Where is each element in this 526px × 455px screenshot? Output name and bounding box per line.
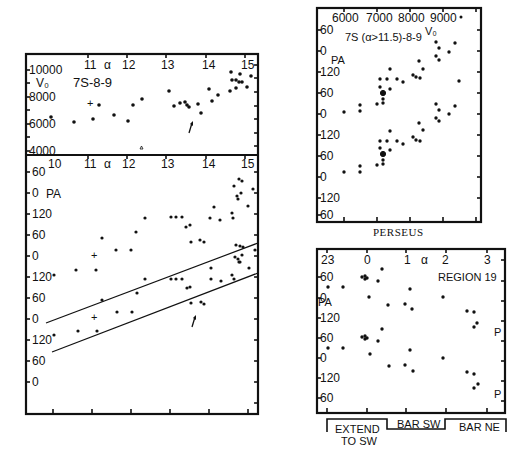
rb-title: REGION 19 bbox=[438, 271, 497, 283]
svg-text:60: 60 bbox=[32, 291, 46, 305]
p-marker: P bbox=[494, 388, 501, 400]
svg-text:+: + bbox=[91, 311, 97, 323]
svg-text:α: α bbox=[104, 58, 111, 72]
svg-text:+: + bbox=[91, 249, 97, 261]
svg-text:0: 0 bbox=[320, 170, 327, 184]
svg-text:α: α bbox=[421, 253, 428, 267]
svg-text:60: 60 bbox=[32, 165, 46, 179]
svg-text:1: 1 bbox=[404, 253, 411, 267]
svg-text:14: 14 bbox=[202, 157, 216, 171]
svg-text:11: 11 bbox=[84, 58, 97, 72]
svg-text:0: 0 bbox=[320, 351, 327, 365]
svg-text:10: 10 bbox=[48, 157, 62, 171]
lb-x-ticks: 10 11 α 12 13 14 15 bbox=[48, 155, 255, 414]
svg-text:23: 23 bbox=[321, 253, 335, 267]
svg-text:13: 13 bbox=[161, 58, 175, 72]
svg-text:0: 0 bbox=[32, 249, 39, 263]
region-bar-ne-label: BAR NE bbox=[459, 421, 500, 433]
right-top-panel: 6000 7000 8000 9000 V₀ 7S (α>11.5)-8-9 P… bbox=[317, 8, 481, 238]
right-bottom-panel: 23 0 1 α 2 3 REGION 19 PA 60 0 120 60 0 … bbox=[317, 249, 506, 447]
svg-text:13: 13 bbox=[161, 157, 175, 171]
svg-text:3: 3 bbox=[484, 253, 491, 267]
svg-text:α: α bbox=[104, 157, 111, 171]
lb-ylabel: PA bbox=[46, 187, 61, 201]
svg-text:60: 60 bbox=[32, 354, 46, 368]
svg-text:60: 60 bbox=[320, 149, 334, 163]
svg-text:0: 0 bbox=[32, 375, 39, 389]
fit-line-lower bbox=[52, 273, 258, 352]
svg-text:120: 120 bbox=[320, 311, 340, 325]
lt-y-ticks: 10000 8000 6000 4000 bbox=[26, 63, 258, 158]
region-brackets: EXTEND TO SW BAR SW BAR NE bbox=[327, 418, 506, 447]
svg-text:60: 60 bbox=[320, 391, 334, 405]
svg-text:8000: 8000 bbox=[398, 11, 425, 25]
triangle-marker bbox=[140, 146, 143, 149]
svg-text:4000: 4000 bbox=[29, 144, 56, 158]
figure-canvas: 11 α 12 13 14 15 10000 8000 6000 4000 bbox=[0, 0, 526, 455]
svg-text:0: 0 bbox=[364, 253, 371, 267]
svg-text:60: 60 bbox=[320, 23, 334, 37]
svg-text:15: 15 bbox=[241, 157, 255, 171]
rt-caption: PERSEUS bbox=[373, 226, 424, 238]
svg-text:0: 0 bbox=[320, 291, 327, 305]
svg-text:2: 2 bbox=[442, 253, 449, 267]
svg-text:60: 60 bbox=[320, 208, 334, 222]
rb-points: P P bbox=[326, 267, 501, 400]
rt-y-ticks: 60 0 120 60 0 120 60 0 120 60 bbox=[317, 23, 481, 222]
svg-text:14: 14 bbox=[202, 58, 216, 72]
svg-text:60: 60 bbox=[320, 270, 334, 284]
svg-text:6000: 6000 bbox=[29, 117, 56, 131]
svg-text:0: 0 bbox=[320, 107, 327, 121]
svg-text:7000: 7000 bbox=[366, 11, 393, 25]
p-marker: P bbox=[494, 326, 501, 338]
svg-text:6000: 6000 bbox=[332, 11, 359, 25]
svg-text:0: 0 bbox=[32, 312, 39, 326]
svg-text:120: 120 bbox=[320, 371, 340, 385]
svg-text:60: 60 bbox=[320, 86, 334, 100]
svg-text:11: 11 bbox=[84, 157, 97, 171]
svg-text:8000: 8000 bbox=[29, 90, 56, 104]
fit-line-upper bbox=[46, 243, 258, 323]
svg-text:12: 12 bbox=[122, 58, 136, 72]
rt-title: 7S (α>11.5)-8-9 bbox=[345, 31, 422, 43]
lt-x-ticks: 11 α 12 13 14 15 bbox=[84, 58, 255, 72]
svg-text:120: 120 bbox=[32, 270, 52, 284]
svg-text:120: 120 bbox=[320, 128, 340, 142]
svg-text:12: 12 bbox=[122, 157, 136, 171]
rt-points bbox=[342, 40, 460, 173]
region-extend-label-1: EXTEND bbox=[335, 423, 380, 435]
svg-text:15: 15 bbox=[241, 58, 255, 72]
lt-ylabel: V₀ bbox=[36, 76, 49, 90]
left-panel: 11 α 12 13 14 15 10000 8000 6000 4000 bbox=[26, 54, 258, 414]
rt-xlabel: V₀ bbox=[425, 25, 437, 37]
svg-text:60: 60 bbox=[32, 228, 46, 242]
region-extend-label-2: TO SW bbox=[341, 435, 377, 447]
lt-title: 7S-8-9 bbox=[73, 75, 112, 90]
left-panel-frame bbox=[26, 54, 258, 414]
svg-text:0: 0 bbox=[320, 44, 327, 58]
svg-text:0: 0 bbox=[32, 186, 39, 200]
svg-text:120: 120 bbox=[320, 191, 340, 205]
svg-text:120: 120 bbox=[32, 333, 52, 347]
svg-text:+: + bbox=[87, 97, 93, 109]
svg-text:120: 120 bbox=[320, 65, 340, 79]
svg-text:9000: 9000 bbox=[430, 11, 457, 25]
svg-text:120: 120 bbox=[32, 207, 52, 221]
svg-text:10000: 10000 bbox=[29, 63, 63, 77]
region-bar-sw-label: BAR SW bbox=[397, 418, 441, 430]
svg-text:60: 60 bbox=[320, 331, 334, 345]
